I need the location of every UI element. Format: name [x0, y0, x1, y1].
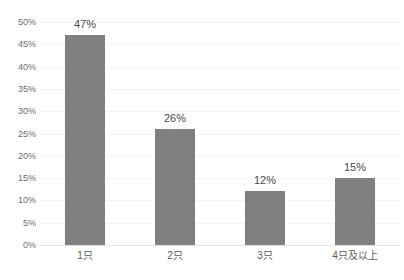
gridline-0% — [40, 245, 400, 246]
bar-slot: 12% — [220, 22, 310, 245]
chart-title-cropped — [140, 0, 270, 3]
y-axis-tick-30%: 30% — [2, 107, 36, 116]
bar-value-label: 12% — [220, 175, 310, 186]
bar-value-label: 15% — [310, 162, 400, 173]
y-axis-tick-20%: 20% — [2, 152, 36, 161]
bar-value-label: 26% — [130, 113, 220, 124]
y-axis-tick-45%: 45% — [2, 40, 36, 49]
x-axis-tick-2: 2只 — [130, 250, 220, 262]
y-axis-tick-10%: 10% — [2, 196, 36, 205]
y-axis: 0%5%10%15%20%25%30%35%40%45%50% — [0, 22, 36, 245]
plot-area: 47%26%12%15% — [40, 22, 400, 245]
y-axis-tick-5%: 5% — [2, 219, 36, 228]
x-axis: 1只2只3只4只及以上 — [40, 250, 400, 270]
x-axis-tick-1: 1只 — [40, 250, 130, 262]
y-axis-tick-0%: 0% — [2, 241, 36, 250]
bar-chart: 0%5%10%15%20%25%30%35%40%45%50% 47%26%12… — [0, 0, 404, 280]
y-axis-tick-35%: 35% — [2, 85, 36, 94]
y-axis-tick-25%: 25% — [2, 130, 36, 139]
bar[interactable] — [245, 191, 285, 245]
bar[interactable] — [335, 178, 375, 245]
bar-value-label: 47% — [40, 19, 130, 30]
y-axis-tick-15%: 15% — [2, 174, 36, 183]
y-axis-tick-40%: 40% — [2, 63, 36, 72]
x-axis-tick-4: 4只及以上 — [310, 250, 400, 262]
bar-slot: 15% — [310, 22, 400, 245]
bar-slot: 47% — [40, 22, 130, 245]
bar-slot: 26% — [130, 22, 220, 245]
bar[interactable] — [65, 35, 105, 245]
bar[interactable] — [155, 129, 195, 245]
y-axis-tick-50%: 50% — [2, 18, 36, 27]
x-axis-tick-3: 3只 — [220, 250, 310, 262]
